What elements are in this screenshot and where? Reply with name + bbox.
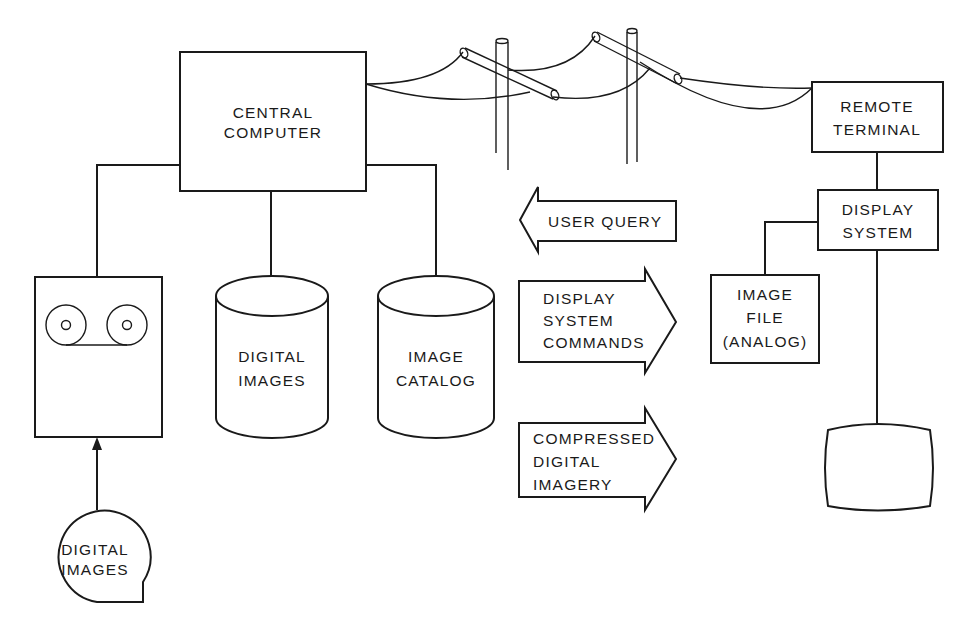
central-computer-label-2: COMPUTER xyxy=(224,124,322,141)
system-diagram: CENTRAL COMPUTER DIGITAL IMAGES DIGITAL … xyxy=(0,0,966,624)
display-system-label-1: DISPLAY xyxy=(842,201,915,218)
image-file-label-2: FILE xyxy=(746,309,784,326)
digital-images-source: DIGITAL IMAGES xyxy=(59,511,151,602)
display-system-box: DISPLAY SYSTEM xyxy=(818,190,938,250)
digital-images-label-2: IMAGES xyxy=(238,372,306,389)
up-arrowhead-icon xyxy=(92,437,102,450)
source-label-2: IMAGES xyxy=(61,561,129,578)
display-commands-arrow: DISPLAY SYSTEM COMMANDS xyxy=(519,269,676,373)
source-label-1: DIGITAL xyxy=(61,541,129,558)
telephone-poles-icon xyxy=(366,29,812,171)
image-catalog-label-1: IMAGE xyxy=(408,348,464,365)
image-file-label-3: (ANALOG) xyxy=(723,333,808,350)
compressed-imagery-arrow: COMPRESSED DIGITAL IMAGERY xyxy=(519,408,676,510)
image-file-box: IMAGE FILE (ANALOG) xyxy=(711,275,819,363)
compressed-label-2: DIGITAL xyxy=(533,453,601,470)
digital-images-database: DIGITAL IMAGES xyxy=(216,276,328,438)
monitor-screen-icon xyxy=(825,424,933,511)
display-commands-label-3: COMMANDS xyxy=(543,334,645,351)
remote-terminal-box: REMOTE TERMINAL xyxy=(812,82,943,152)
remote-terminal-label-2: TERMINAL xyxy=(833,121,921,138)
image-catalog-database: IMAGE CATALOG xyxy=(378,276,494,438)
tape-drive xyxy=(35,277,162,437)
digital-images-label-1: DIGITAL xyxy=(238,348,306,365)
remote-terminal-label-1: REMOTE xyxy=(840,98,914,115)
image-catalog-label-2: CATALOG xyxy=(396,372,476,389)
image-file-label-1: IMAGE xyxy=(737,286,793,303)
display-system-label-2: SYSTEM xyxy=(843,224,914,241)
user-query-arrow: USER QUERY xyxy=(520,187,676,252)
display-commands-label-2: SYSTEM xyxy=(543,312,614,329)
compressed-label-3: IMAGERY xyxy=(533,476,613,493)
compressed-label-1: COMPRESSED xyxy=(533,430,655,447)
display-commands-label-1: DISPLAY xyxy=(543,290,616,307)
central-computer-box: CENTRAL COMPUTER xyxy=(180,52,366,191)
user-query-label: USER QUERY xyxy=(548,213,662,230)
central-computer-label-1: CENTRAL xyxy=(233,104,314,121)
